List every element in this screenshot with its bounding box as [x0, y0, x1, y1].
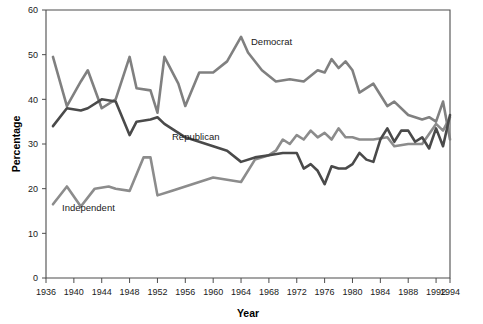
series-line-independent: [53, 117, 450, 206]
x-tick-label: 1952: [147, 287, 167, 297]
x-tick-label: 1948: [120, 287, 140, 297]
series-label-democrat: Democrat: [251, 36, 293, 47]
series-label-independent: Independent: [62, 202, 115, 213]
x-tick-label: 1976: [315, 287, 335, 297]
x-tick-label: 1940: [64, 287, 84, 297]
x-tick-label: 1936: [36, 287, 56, 297]
series-line-democrat: [53, 37, 450, 140]
x-axis-ticks: 1936194019441948195219561960196419681972…: [36, 278, 460, 297]
y-axis-ticks: 0102030405060: [28, 5, 46, 283]
x-tick-label: 1988: [398, 287, 418, 297]
x-tick-label: 1994: [440, 287, 460, 297]
party-identification-line-chart: 0102030405060 19361940194419481952195619…: [0, 0, 483, 324]
y-tick-label: 0: [33, 273, 38, 283]
series-label-republican: Republican: [172, 131, 220, 142]
x-tick-label: 1980: [342, 287, 362, 297]
y-tick-label: 60: [28, 5, 38, 15]
x-tick-label: 1944: [92, 287, 112, 297]
x-tick-label: 1968: [259, 287, 279, 297]
y-tick-label: 20: [28, 184, 38, 194]
x-tick-label: 1960: [203, 287, 223, 297]
chart-canvas: 0102030405060 19361940194419481952195619…: [0, 0, 483, 324]
y-tick-label: 10: [28, 229, 38, 239]
x-tick-label: 1972: [287, 287, 307, 297]
x-tick-label: 1964: [231, 287, 251, 297]
data-series-group: [53, 37, 450, 207]
y-tick-label: 40: [28, 95, 38, 105]
y-axis-title: Percentage: [10, 116, 22, 173]
x-axis-title: Year: [237, 307, 259, 319]
y-tick-label: 50: [28, 50, 38, 60]
x-tick-label: 1956: [175, 287, 195, 297]
x-tick-label: 1984: [370, 287, 390, 297]
y-tick-label: 30: [28, 139, 38, 149]
